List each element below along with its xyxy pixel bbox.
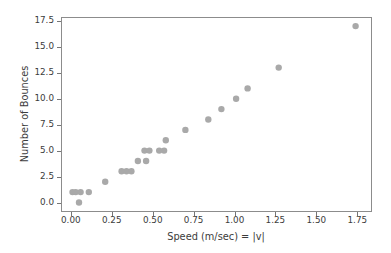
y-tick-label: 12.5 [25, 67, 54, 78]
x-axis-label: Speed (m/sec) = |v| [167, 231, 265, 242]
y-tick-label: 5.0 [25, 145, 54, 156]
data-point [76, 199, 82, 205]
y-tick-label: 10.0 [25, 93, 54, 104]
data-point [161, 147, 167, 153]
y-tick-mark [57, 99, 61, 100]
y-tick-label: 17.5 [25, 15, 54, 26]
data-point [352, 23, 358, 29]
x-tick-label: 1.75 [340, 215, 374, 225]
y-tick-mark [57, 151, 61, 152]
data-point [102, 179, 108, 185]
data-point [218, 106, 224, 112]
x-tick-label: 1.25 [258, 215, 292, 225]
plot-area [61, 17, 372, 212]
scatter-points-layer [69, 23, 359, 206]
y-tick-label: 15.0 [25, 41, 54, 52]
data-point [182, 127, 188, 133]
data-point [276, 64, 282, 70]
x-tick-label: 0.00 [54, 215, 88, 225]
data-point [205, 116, 211, 122]
y-tick-mark [57, 203, 61, 204]
y-tick-mark [57, 47, 61, 48]
data-point [77, 189, 83, 195]
data-point [135, 158, 141, 164]
data-point [143, 158, 149, 164]
x-tick-label: 0.75 [177, 215, 211, 225]
y-tick-mark [57, 125, 61, 126]
data-point [146, 147, 152, 153]
data-point [86, 189, 92, 195]
y-tick-label: 2.5 [25, 171, 54, 182]
x-tick-label: 0.25 [95, 215, 129, 225]
x-tick-label: 1.00 [218, 215, 252, 225]
data-point [244, 85, 250, 91]
data-point [163, 137, 169, 143]
y-tick-mark [57, 177, 61, 178]
y-tick-label: 7.5 [25, 119, 54, 130]
x-tick-label: 1.50 [299, 215, 333, 225]
data-point [128, 168, 134, 174]
scatter-plot-figure: Speed (m/sec) = |v| Number of Bounces 0.… [0, 0, 391, 253]
y-tick-label: 0.0 [25, 197, 54, 208]
y-tick-mark [57, 21, 61, 22]
data-point [233, 96, 239, 102]
x-tick-label: 0.50 [136, 215, 170, 225]
y-tick-mark [57, 73, 61, 74]
